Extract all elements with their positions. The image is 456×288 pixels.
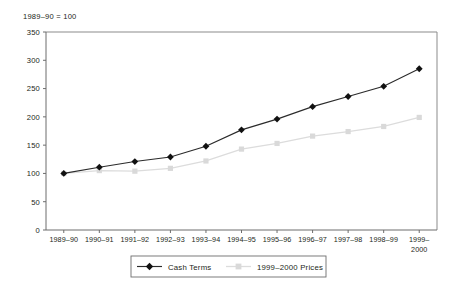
series-line <box>64 69 419 174</box>
x-tick-label: 1998–99 <box>369 235 398 244</box>
data-point-marker <box>239 147 244 152</box>
data-point-marker <box>203 143 210 150</box>
data-point-marker <box>274 116 281 123</box>
data-point-marker <box>310 133 315 138</box>
y-tick-label: 250 <box>27 84 40 93</box>
y-tick-label: 300 <box>27 56 40 65</box>
data-point-marker <box>416 65 423 72</box>
data-point-marker <box>346 129 351 134</box>
y-axis-ticks: 050100150200250300350 <box>27 28 46 235</box>
y-tick-label: 150 <box>27 141 40 150</box>
x-tick-label: 1994–95 <box>227 235 256 244</box>
y-tick-label: 200 <box>27 113 40 122</box>
data-point-marker <box>168 166 173 171</box>
data-point-marker <box>345 93 352 100</box>
x-tick-label: 1989–90 <box>49 235 78 244</box>
x-tick-label: 1999–2000 <box>409 235 430 254</box>
x-tick-label: 1992–93 <box>156 235 185 244</box>
x-axis-ticks: 1989–901990–911991–921992–931993–941994–… <box>49 230 429 254</box>
x-tick-label: 1997–98 <box>334 235 363 244</box>
y-tick-label: 350 <box>27 28 40 37</box>
legend-label-cash-terms: Cash Terms <box>168 263 211 272</box>
data-point-marker <box>309 103 316 110</box>
legend-label-1999-2000-prices: 1999–2000 Prices <box>257 263 323 272</box>
x-tick-label: 1995–96 <box>263 235 292 244</box>
index-base-note: 1989–90 = 100 <box>23 12 77 21</box>
x-tick-label: 1993–94 <box>192 235 221 244</box>
x-tick-label: 1996–97 <box>298 235 327 244</box>
data-point-marker <box>132 169 137 174</box>
y-tick-label: 100 <box>27 169 40 178</box>
data-point-marker <box>417 115 422 120</box>
data-point-marker <box>381 124 386 129</box>
series-1999-2000-prices <box>61 115 422 176</box>
x-tick-label: 1991–92 <box>121 235 150 244</box>
x-tick-label: 1990–91 <box>85 235 114 244</box>
y-tick-label: 0 <box>36 226 40 235</box>
data-point-marker <box>380 83 387 90</box>
y-tick-label: 50 <box>31 198 40 207</box>
series-cash-terms <box>60 65 422 176</box>
data-point-marker <box>238 126 245 133</box>
data-point-marker <box>131 158 138 165</box>
legend-marker-square-prices <box>236 264 242 270</box>
line-chart: 050100150200250300350 1989–901990–911991… <box>0 0 456 288</box>
series-line <box>64 117 419 173</box>
chart-legend: Cash Terms 1999–2000 Prices <box>131 256 326 277</box>
data-point-marker <box>274 141 279 146</box>
chart-container: 1989–90 = 100 050100150200250300350 1989… <box>0 0 456 288</box>
data-point-marker <box>167 154 174 161</box>
data-point-marker <box>203 158 208 163</box>
